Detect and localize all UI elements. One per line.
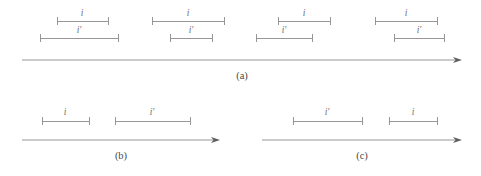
- panels-layer: ii′ii′ii′ii′(a)ii′(b)i′i(c): [22, 8, 462, 162]
- time-axis-b: [22, 137, 220, 143]
- interval-bracket-a-1-top: i: [152, 8, 224, 25]
- interval-bracket-a-3-bottom: i′: [394, 25, 444, 42]
- interval-label-primary: i′: [150, 107, 156, 117]
- overlap-group-4-a: ii′: [375, 8, 444, 42]
- panel-b: ii′(b): [22, 107, 220, 162]
- interval-bracket-a-2-bottom: i′: [256, 25, 312, 42]
- after-group-c: i: [389, 107, 437, 125]
- interval-label-primary: i: [187, 8, 190, 18]
- interval-label-primary: i: [64, 107, 67, 117]
- interval-bracket-a-3-top: i: [375, 8, 437, 25]
- before-group-c: i′: [293, 107, 362, 125]
- panel-caption-c: (c): [356, 150, 368, 162]
- interval-label-secondary: i′: [189, 25, 195, 35]
- interval-bracket-a-0-top: i: [57, 8, 108, 25]
- interval-bracket-c-0-top: i′: [293, 107, 362, 125]
- interval-bracket-b-1-top: i′: [115, 107, 190, 125]
- interval-bracket-b-0-top: i: [42, 107, 89, 125]
- overlap-group-1-a: ii′: [40, 8, 118, 42]
- figure-canvas: ii′ii′ii′ii′(a)ii′(b)i′i(c): [0, 0, 481, 176]
- interval-label-secondary: i′: [282, 25, 288, 35]
- interval-bracket-a-2-top: i: [278, 8, 330, 25]
- interval-label-primary: i′: [325, 107, 331, 117]
- panel-a: ii′ii′ii′ii′(a): [22, 8, 462, 82]
- interval-relations-figure: ii′ii′ii′ii′(a)ii′(b)i′i(c): [0, 0, 481, 176]
- interval-label-primary: i: [405, 8, 408, 18]
- panel-c: i′i(c): [262, 107, 462, 162]
- time-axis-c: [262, 137, 462, 143]
- interval-label-secondary: i′: [77, 25, 83, 35]
- overlap-group-2-a: ii′: [152, 8, 224, 42]
- interval-bracket-c-1-top: i: [389, 107, 437, 125]
- after-group-b: i′: [115, 107, 190, 125]
- interval-bracket-a-0-bottom: i′: [40, 25, 118, 42]
- interval-label-primary: i: [303, 8, 306, 18]
- time-axis-a: [22, 57, 462, 63]
- interval-label-secondary: i′: [417, 25, 423, 35]
- interval-label-primary: i: [81, 8, 84, 18]
- before-group-b: i: [42, 107, 89, 125]
- panel-caption-b: (b): [115, 150, 128, 162]
- interval-bracket-a-1-bottom: i′: [170, 25, 212, 42]
- panel-caption-a: (a): [236, 70, 248, 82]
- interval-label-primary: i: [412, 107, 415, 117]
- overlap-group-3-a: ii′: [256, 8, 330, 42]
